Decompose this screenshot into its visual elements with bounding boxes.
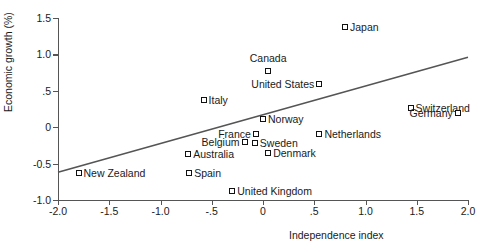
- data-point[interactable]: [185, 151, 191, 157]
- data-point-label: Japan: [350, 21, 379, 32]
- y-axis-title: Economic growth (%): [2, 12, 14, 112]
- y-tick: [53, 91, 58, 92]
- data-point-label: Spain: [194, 168, 221, 179]
- data-point[interactable]: [316, 131, 322, 137]
- data-point[interactable]: [342, 24, 348, 30]
- data-point[interactable]: [252, 140, 258, 146]
- data-point-label: United States: [251, 78, 314, 89]
- data-point-label: Italy: [209, 95, 228, 106]
- data-point-label: Netherlands: [324, 129, 381, 140]
- y-tick-label: 1.0: [36, 49, 51, 60]
- data-point[interactable]: [455, 110, 461, 116]
- x-tick-label: .5: [310, 206, 319, 217]
- y-tick-label: 1.5: [36, 13, 51, 24]
- data-point[interactable]: [186, 170, 192, 176]
- x-tick-label: 1.0: [358, 206, 373, 217]
- data-point[interactable]: [316, 81, 322, 87]
- data-point-label: Norway: [268, 114, 304, 125]
- y-tick-label: 0: [45, 122, 51, 133]
- data-point[interactable]: [265, 150, 271, 156]
- data-point-label: New Zealand: [84, 168, 146, 179]
- scatter-plot-figure: Economic growth (%) Independence index 1…: [0, 0, 489, 249]
- y-tick: [53, 18, 58, 19]
- x-tick-label: -.5: [206, 206, 218, 217]
- data-point-label: Belgium: [202, 137, 240, 148]
- y-tick: [53, 164, 58, 165]
- data-point[interactable]: [242, 139, 248, 145]
- x-tick-label: -1.0: [151, 206, 169, 217]
- x-tick-label: 2.0: [461, 206, 476, 217]
- data-point[interactable]: [229, 188, 235, 194]
- data-point[interactable]: [76, 170, 82, 176]
- y-tick: [53, 127, 58, 128]
- x-tick-label: -2.0: [49, 206, 67, 217]
- x-tick-label: 1.5: [409, 206, 424, 217]
- data-point[interactable]: [201, 97, 207, 103]
- data-point-label: Australia: [193, 149, 234, 160]
- data-point-label: Germany: [410, 107, 453, 118]
- data-point[interactable]: [265, 68, 271, 74]
- y-tick-label: -1.0: [33, 195, 51, 206]
- data-point-label: Canada: [250, 53, 287, 64]
- data-point[interactable]: [253, 131, 259, 137]
- plot-area: 1.51.0.50-0.5-1.0 -2.0-1.5-1.0-.50.51.01…: [58, 18, 468, 200]
- data-point-label: United Kingdom: [237, 186, 312, 197]
- x-axis-title: Independence index: [289, 229, 384, 241]
- y-tick: [53, 54, 58, 55]
- data-point[interactable]: [260, 116, 266, 122]
- x-tick-label: -1.5: [100, 206, 118, 217]
- y-tick-label: -0.5: [33, 158, 51, 169]
- data-point-label: Denmark: [273, 148, 316, 159]
- y-tick-label: .5: [42, 86, 51, 97]
- x-tick-label: 0: [260, 206, 266, 217]
